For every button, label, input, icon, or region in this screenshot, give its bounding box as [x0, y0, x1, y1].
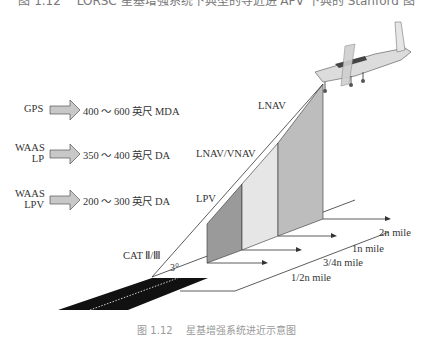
- legend-minima-waas-lp: 350 ～ 400 英尺 DA: [83, 147, 170, 162]
- label-lpv: LPV: [196, 193, 216, 204]
- legend-system-waas-lp: WAAS LP: [15, 142, 44, 164]
- aircraft-icon: [315, 22, 411, 93]
- arrow-gps: [50, 100, 80, 120]
- distance-label-one: 1n mile: [352, 243, 384, 254]
- distance-label-half: 1/2n mile: [291, 272, 331, 283]
- arrow-waas-lp: [50, 144, 80, 164]
- distance-label-two: 2n mile: [379, 227, 411, 238]
- figure-caption: 图 1.12 星基增强系统进近示意图: [0, 322, 433, 337]
- label-lnav: LNAV: [258, 100, 286, 111]
- label-angle: 3°: [170, 262, 179, 273]
- legend-system-line1: WAAS: [15, 188, 44, 199]
- legend-minima-gps: 400 ～ 600 英尺 MDA: [83, 103, 180, 118]
- label-lnav-vnav: LNAV/VNAV: [196, 148, 256, 159]
- distance-label-three-quarter: 3/4n mile: [323, 257, 363, 268]
- lnav-vnav-wall: [242, 143, 278, 250]
- legend-system-line2: LPV: [15, 199, 44, 210]
- legend-system-gps: GPS: [24, 103, 43, 114]
- legend-minima-waas-lpv: 200 ～ 300 英尺 DA: [83, 193, 170, 208]
- label-cat: CAT Ⅱ/Ⅲ: [123, 249, 161, 261]
- legend-system-line1: WAAS: [15, 142, 44, 153]
- legend-system-waas-lpv: WAAS LPV: [15, 188, 44, 210]
- arrow-waas-lpv: [50, 190, 80, 210]
- legend-system-line2: LP: [15, 153, 44, 164]
